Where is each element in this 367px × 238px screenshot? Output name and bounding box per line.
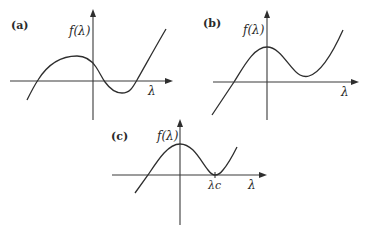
panel-c-y-axis-arrow-icon — [177, 119, 183, 127]
panel-a-y-axis-label: f(λ) — [68, 24, 91, 38]
panel-a-label: (a) — [11, 19, 29, 32]
panel-c-critical-label: λc — [207, 179, 221, 192]
panel-c-x-axis-arrow-icon — [259, 172, 267, 178]
panel-c-x-axis-label: λ — [247, 178, 256, 192]
panel-a-curve — [27, 29, 166, 100]
panel-b-y-axis-label: f(λ) — [242, 23, 265, 37]
panel-c: (c) f(λ) λc λ — [111, 119, 267, 225]
panel-b-x-axis-label: λ — [340, 85, 349, 99]
panel-a-x-axis-arrow-icon — [165, 78, 173, 84]
panel-a-x-axis-label: λ — [147, 84, 156, 98]
panel-b-y-axis-arrow-icon — [264, 10, 270, 18]
panel-b: (b) f(λ) λ — [203, 10, 359, 120]
figure: (a) f(λ) λ (b) f(λ) λ (c) f( — [0, 0, 367, 238]
panel-b-x-axis-arrow-icon — [351, 79, 359, 85]
panel-b-curve — [212, 30, 343, 115]
panel-a-y-axis-arrow-icon — [90, 9, 96, 17]
panel-c-label: (c) — [111, 130, 128, 143]
panel-b-label: (b) — [203, 17, 221, 30]
panel-c-y-axis-label: f(λ) — [156, 129, 179, 143]
panel-a: (a) f(λ) λ — [10, 9, 173, 120]
panel-c-curve — [135, 144, 237, 193]
